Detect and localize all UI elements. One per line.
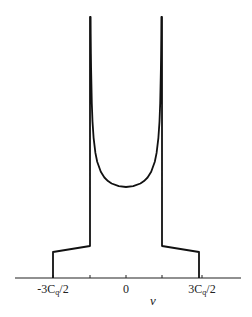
tick-label-pos: 3Cq/2: [188, 282, 215, 297]
tick-label-neg: -3Cq/2: [37, 282, 68, 297]
spectrum-curve: [53, 17, 199, 278]
x-axis-label: ν: [150, 293, 156, 308]
tick-label-zero: 0: [123, 282, 129, 296]
lineshape-chart: -3Cq/2 0 3Cq/2 ν: [0, 0, 252, 317]
